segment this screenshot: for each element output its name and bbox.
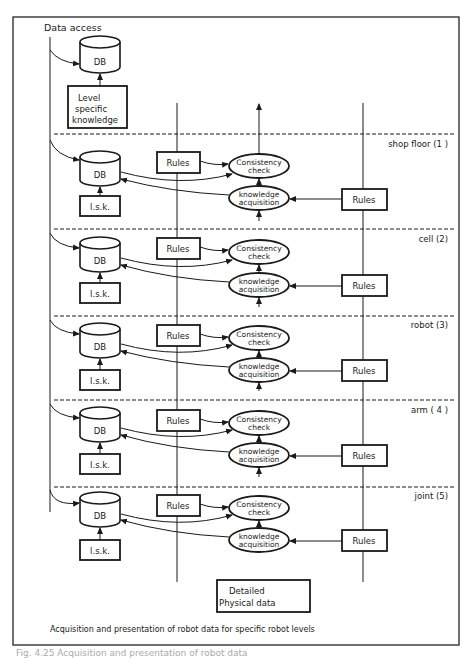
svg-text:l.s.k.: l.s.k. — [90, 202, 110, 212]
db-cylinder: DB — [80, 151, 120, 186]
svg-text:DB: DB — [94, 342, 107, 352]
level-arm: arm ( 4 ) DB l.s.k. Rules Consistency ch… — [50, 383, 448, 474]
level-specific-knowledge-box: Level specific knowledge — [68, 86, 127, 128]
svg-text:Rules: Rules — [167, 501, 191, 511]
svg-text:check: check — [248, 338, 271, 347]
svg-text:DB: DB — [94, 170, 107, 180]
data-access-label: Data access — [44, 22, 102, 33]
level-label: arm ( 4 ) — [411, 405, 448, 415]
svg-text:DB: DB — [94, 256, 107, 266]
db-cylinder: DB — [80, 237, 120, 272]
svg-text:Rules: Rules — [353, 281, 377, 291]
svg-text:acquisition: acquisition — [239, 455, 280, 464]
svg-text:Rules: Rules — [167, 244, 191, 254]
svg-text:l.s.k.: l.s.k. — [90, 546, 110, 556]
svg-text:l.s.k.: l.s.k. — [90, 376, 110, 386]
svg-text:Rules: Rules — [353, 536, 377, 546]
svg-text:DB: DB — [94, 57, 107, 67]
svg-text:check: check — [248, 508, 271, 517]
svg-text:check: check — [248, 423, 271, 432]
svg-text:DB: DB — [94, 426, 107, 436]
level-label: cell (2) — [419, 234, 448, 244]
diagram-caption: Acquisition and presentation of robot da… — [50, 625, 315, 634]
level-label: robot (3) — [411, 320, 448, 330]
level-label: joint (5) — [414, 491, 448, 501]
top-access-arrow — [50, 50, 79, 64]
svg-text:Detailed: Detailed — [229, 586, 265, 596]
svg-text:acquisition: acquisition — [239, 540, 280, 549]
svg-text:acquisition: acquisition — [239, 370, 280, 379]
level-cell: cell (2) DB l.s.k. Rules Consistency che… — [50, 211, 448, 303]
svg-text:Physical data: Physical data — [219, 598, 275, 608]
level-label: shop floor (1 ) — [388, 139, 448, 149]
svg-text:Rules: Rules — [167, 158, 191, 168]
svg-text:specific: specific — [75, 104, 107, 114]
level-joint: joint (5) DB l.s.k. Rules Consistency ch… — [50, 468, 448, 560]
svg-text:knowledge: knowledge — [72, 115, 118, 125]
level-shop-floor: shop floor (1 ) DB l.s.k. Rules Consiste… — [50, 139, 448, 216]
svg-text:Rules: Rules — [353, 195, 377, 205]
svg-text:acquisition: acquisition — [239, 285, 280, 294]
svg-text:acquisition: acquisition — [239, 198, 280, 207]
svg-text:l.s.k.: l.s.k. — [90, 460, 110, 470]
svg-text:Level: Level — [78, 93, 100, 103]
svg-text:Rules: Rules — [167, 416, 191, 426]
svg-text:check: check — [248, 252, 271, 261]
level-robot: robot (3) DB l.s.k. Rules Consistency ch… — [50, 298, 448, 390]
svg-text:check: check — [248, 166, 271, 175]
svg-text:DB: DB — [94, 511, 107, 521]
svg-text:l.s.k.: l.s.k. — [90, 289, 110, 299]
top-db: DB — [80, 36, 120, 73]
db-cylinder: DB — [80, 492, 120, 527]
svg-text:Rules: Rules — [353, 366, 377, 376]
svg-text:Rules: Rules — [353, 451, 377, 461]
db-cylinder: DB — [80, 323, 120, 358]
figure-caption-cropped: Fig. 4.25 Acquisition and presentation o… — [16, 648, 248, 658]
db-cylinder: DB — [80, 407, 120, 442]
detailed-physical-data-box: Detailed Physical data — [217, 580, 310, 612]
svg-text:Rules: Rules — [167, 331, 191, 341]
